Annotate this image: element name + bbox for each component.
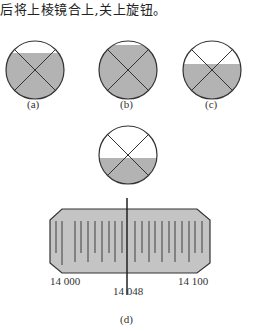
scale-reading-label: 14 048 bbox=[113, 285, 143, 297]
view-field-d bbox=[90, 126, 170, 198]
scale-left-label: 14 000 bbox=[50, 275, 80, 287]
label-c: (c) bbox=[205, 98, 217, 110]
label-b: (b) bbox=[120, 98, 133, 110]
label-a: (a) bbox=[27, 98, 39, 110]
label-d: (d) bbox=[120, 313, 133, 325]
view-field-b bbox=[90, 41, 170, 105]
scale-right-label: 14 100 bbox=[178, 275, 208, 287]
view-field-c bbox=[180, 41, 250, 104]
view-field-a bbox=[0, 41, 70, 103]
refractometer-figures bbox=[0, 0, 258, 331]
